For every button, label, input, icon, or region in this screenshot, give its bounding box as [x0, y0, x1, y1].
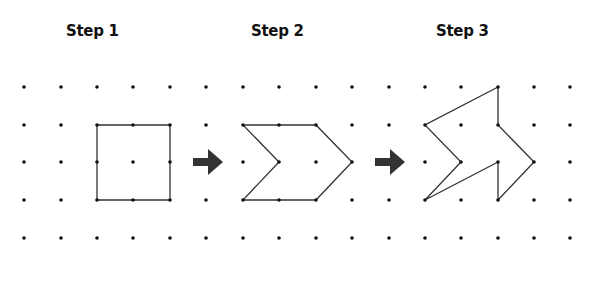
arrow-step2-to-step3-icon — [375, 149, 405, 175]
grid-dot — [350, 85, 354, 89]
grid-dot — [277, 123, 281, 127]
grid-dot — [532, 198, 536, 202]
grid-dot — [95, 160, 99, 164]
grid-dot — [350, 123, 354, 127]
grid-dot — [95, 236, 99, 240]
grid-dot — [423, 160, 427, 164]
grid-dot — [496, 198, 500, 202]
grid-dot — [387, 85, 391, 89]
grid-dot — [241, 123, 245, 127]
grid-dot — [22, 160, 26, 164]
grid-dot — [59, 85, 63, 89]
grid-dot — [532, 160, 536, 164]
grid-dot — [277, 85, 281, 89]
grid-dot — [314, 160, 318, 164]
grid-dot — [22, 85, 26, 89]
grid-dot — [59, 236, 63, 240]
grid-dot — [568, 123, 572, 127]
grid-dot — [532, 85, 536, 89]
grid-dot — [532, 123, 536, 127]
step-2-chevron — [243, 125, 352, 200]
grid-dot — [568, 160, 572, 164]
grid-dot — [350, 198, 354, 202]
grid-dot — [95, 198, 99, 202]
grid-dot — [59, 198, 63, 202]
grid-dot — [387, 198, 391, 202]
grid-dot — [314, 236, 318, 240]
grid-dot — [204, 198, 208, 202]
grid-dot — [350, 160, 354, 164]
grid-dot — [496, 160, 500, 164]
grid-dot — [568, 236, 572, 240]
grid-dot — [496, 123, 500, 127]
grid-dot — [532, 236, 536, 240]
grid-dot — [423, 85, 427, 89]
grid-dot — [168, 160, 172, 164]
grid-dot — [241, 236, 245, 240]
grid-dot — [423, 236, 427, 240]
grid-dot — [204, 236, 208, 240]
grid-dot — [423, 198, 427, 202]
grid-dot — [22, 236, 26, 240]
grid-dot — [204, 85, 208, 89]
step-3-arrow-shape — [425, 87, 534, 200]
grid-dot — [168, 198, 172, 202]
grid-dot — [423, 123, 427, 127]
grid-dot — [568, 198, 572, 202]
grid-dot — [350, 236, 354, 240]
grid-dot — [131, 198, 135, 202]
grid-dot — [95, 123, 99, 127]
grid-dot — [496, 85, 500, 89]
grid-dot — [131, 85, 135, 89]
grid-dot — [314, 85, 318, 89]
grid-dot — [22, 198, 26, 202]
grid-dot — [568, 85, 572, 89]
grid-dot — [277, 160, 281, 164]
grid-dot — [168, 236, 172, 240]
grid-dot — [95, 85, 99, 89]
grid-dot — [459, 236, 463, 240]
grid-dot — [168, 85, 172, 89]
grid-dot — [496, 236, 500, 240]
grid-dot — [277, 236, 281, 240]
grid-dot — [168, 123, 172, 127]
grid-dot — [59, 123, 63, 127]
grid-dot — [459, 85, 463, 89]
grid-dot — [241, 198, 245, 202]
grid-dot — [241, 85, 245, 89]
grid-dot — [459, 123, 463, 127]
grid-dot — [387, 236, 391, 240]
grid-dot — [22, 123, 26, 127]
grid-dot — [314, 123, 318, 127]
dot-grid-diagram — [0, 0, 604, 284]
grid-dot — [241, 160, 245, 164]
grid-dot — [59, 160, 63, 164]
grid-dot — [131, 160, 135, 164]
grid-dot — [131, 123, 135, 127]
grid-dot — [459, 160, 463, 164]
grid-dot — [459, 198, 463, 202]
grid-dot — [314, 198, 318, 202]
grid-dot — [387, 123, 391, 127]
arrow-step1-to-step2-icon — [193, 149, 223, 175]
grid-dot — [204, 123, 208, 127]
grid-dot — [131, 236, 135, 240]
grid-dot — [277, 198, 281, 202]
